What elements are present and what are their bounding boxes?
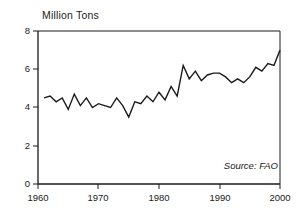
data-series-line <box>44 50 280 117</box>
y-axis-label-6: 6 <box>12 63 30 74</box>
y-axis-label-2: 2 <box>12 140 30 151</box>
x-axis-label-2000: 2000 <box>260 192 300 203</box>
x-axis-label-1990: 1990 <box>200 192 240 203</box>
x-axis-label-1970: 1970 <box>78 192 118 203</box>
y-axis-label-8: 8 <box>12 25 30 36</box>
source-note: Source: FAO <box>224 160 278 171</box>
line-chart-plot <box>0 0 306 222</box>
y-axis-label-0: 0 <box>12 178 30 189</box>
x-axis-label-1960: 1960 <box>18 192 58 203</box>
x-axis-label-1980: 1980 <box>139 192 179 203</box>
chart-page: Million Tons 8 6 4 2 0 1960 1970 198 <box>0 0 306 222</box>
y-axis-label-4: 4 <box>12 101 30 112</box>
